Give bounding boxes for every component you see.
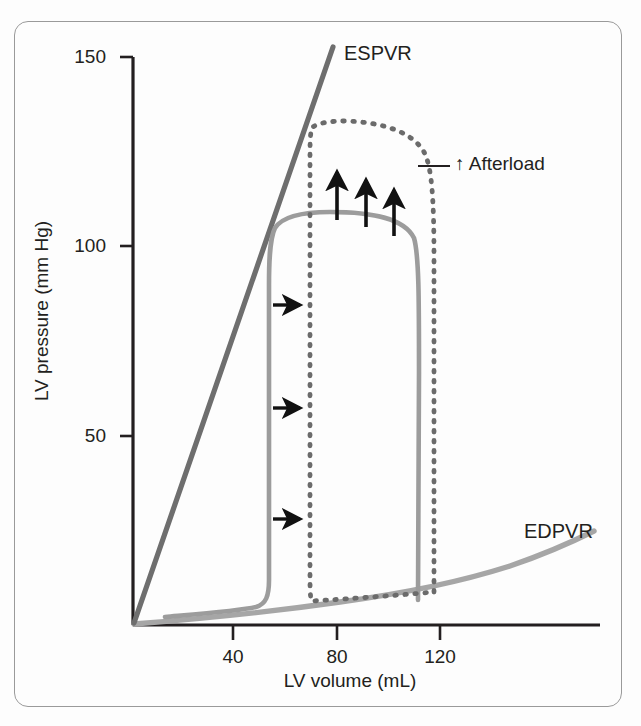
espvr-line (134, 47, 333, 623)
y-tick-label-100: 100 (46, 235, 106, 257)
x-axis-ticks (233, 625, 440, 640)
y-tick-label-150: 150 (46, 46, 106, 68)
afterload-pv-loop (310, 121, 434, 601)
volume-shift-arrows (273, 305, 300, 519)
afterload-label: ↑ Afterload (455, 153, 545, 175)
edpvr-curve (134, 531, 594, 624)
edpvr-label: EDPVR (524, 520, 593, 543)
x-tick-label-120: 120 (410, 646, 470, 668)
x-tick-label-40: 40 (203, 646, 263, 668)
y-axis-title: LV pressure (mm Hg) (31, 211, 53, 411)
baseline-pv-loop (165, 212, 419, 617)
pressure-rise-arrows (337, 172, 394, 236)
x-tick-label-80: 80 (307, 646, 367, 668)
y-axis-ticks (120, 57, 133, 436)
pv-loop-plot (0, 0, 641, 726)
x-axis-title: LV volume (mL) (180, 670, 520, 692)
figure-container: ESPVR EDPVR ↑ Afterload 150 100 50 40 80… (0, 0, 641, 726)
espvr-label: ESPVR (344, 42, 412, 65)
y-tick-label-50: 50 (46, 425, 106, 447)
